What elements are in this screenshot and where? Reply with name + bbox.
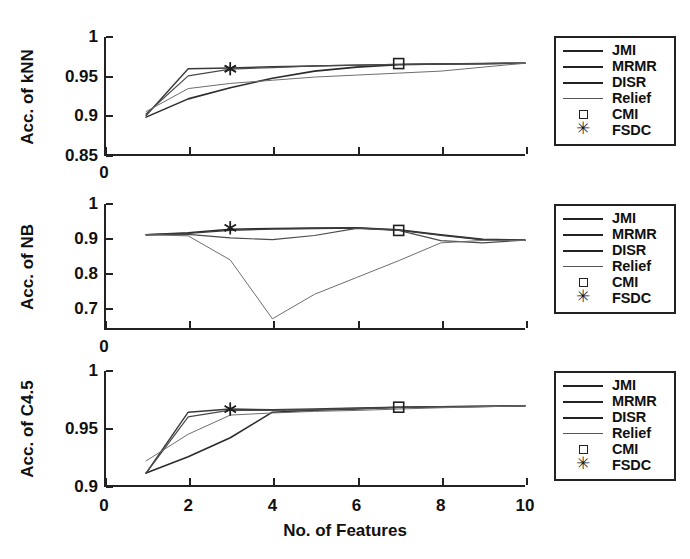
legend-label-disr: DISR [606,409,646,425]
legend-label-relief: Relief [606,425,651,441]
legend-line-relief-icon [563,433,603,434]
panel-c45: 0.90.9510246810No. of FeaturesAcc. of C4… [0,0,690,559]
legend-line-mrmr-icon [563,401,603,403]
legend-line-jmi-icon [563,385,603,387]
legend-line-disr-icon [563,417,603,419]
legend-item-relief-c45[interactable]: Relief [560,425,669,441]
legend-label-fsdc: FSDC [606,457,651,473]
legend-item-mrmr-c45[interactable]: MRMR [560,393,669,409]
series-line-mrmr-c45 [146,406,525,473]
legend-label-cmi: CMI [606,441,638,457]
legend-sample-relief [560,425,606,441]
legend-item-fsdc-c45[interactable]: ✳FSDC [560,457,669,473]
square-marker-icon [579,445,588,454]
legend-label-jmi: JMI [606,377,636,393]
series-line-disr-c45 [146,406,525,473]
legend-item-jmi-c45[interactable]: JMI [560,377,669,393]
series-line-jmi-c45 [146,406,525,473]
legend-sample-jmi [560,377,606,393]
legend-sample-disr [560,409,606,425]
legend-sample-fsdc: ✳ [560,457,606,473]
figure-container: 0.850.90.9510Acc. of kNNJMIMRMRDISRRelie… [0,0,690,559]
asterisk-marker-icon: ✳ [576,457,590,471]
legend-sample-mrmr [560,393,606,409]
legend-item-disr-c45[interactable]: DISR [560,409,669,425]
legend-label-mrmr: MRMR [606,393,657,409]
legend-c45: JMIMRMRDISRReliefCMI✳FSDC [554,371,676,481]
